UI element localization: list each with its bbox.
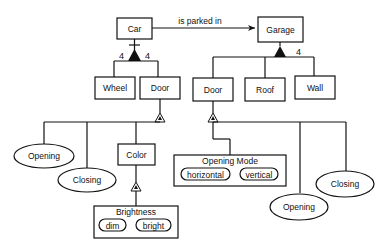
opening-mode-vertical: vertical	[246, 170, 273, 180]
garage-aggregation: 4	[213, 42, 314, 78]
svg-text:Opening: Opening	[283, 202, 315, 212]
aggregation-triangle-icon	[128, 49, 141, 61]
car-label: Car	[128, 24, 142, 34]
door-multiplicity: 4	[145, 51, 150, 61]
svg-text:Roof: Roof	[256, 85, 275, 95]
roof-node[interactable]: Roof	[245, 78, 285, 101]
opening-mode-node[interactable]: Opening Mode horizontal vertical	[174, 155, 286, 186]
car-door-node[interactable]: Door	[140, 77, 180, 99]
association-is-parked-in: is parked in	[152, 16, 255, 31]
svg-text:Wall: Wall	[307, 83, 323, 93]
car-node[interactable]: Car	[117, 18, 152, 39]
opening-mode-horizontal: horizontal	[187, 170, 224, 180]
car-door-opening-attribute[interactable]: Opening	[14, 144, 74, 168]
garage-door-closing-attribute[interactable]: Closing	[316, 171, 374, 197]
svg-text:Closing: Closing	[331, 179, 360, 189]
aggregation-triangle-icon	[274, 46, 286, 57]
wheel-label: Wheel	[103, 83, 127, 93]
brightness-node[interactable]: Brightness dim bright	[94, 206, 178, 238]
car-aggregation: 4 4	[114, 39, 158, 77]
color-specialization	[131, 165, 141, 206]
brightness-dim: dim	[106, 221, 120, 231]
car-door-closing-attribute[interactable]: Closing	[58, 168, 116, 192]
svg-text:Brightness: Brightness	[116, 207, 156, 217]
color-node[interactable]: Color	[118, 144, 155, 165]
car-wheel-node[interactable]: Wheel	[95, 77, 135, 99]
car-door-label: Door	[151, 83, 170, 93]
garage-door-label: Door	[204, 85, 223, 95]
association-label: is parked in	[178, 16, 222, 26]
brightness-bright: bright	[143, 221, 165, 231]
svg-text:Closing: Closing	[73, 175, 102, 185]
garage-door-node[interactable]: Door	[193, 78, 233, 101]
svg-text:Color: Color	[126, 150, 146, 160]
garage-door-opening-attribute[interactable]: Opening	[270, 194, 328, 220]
wall-node[interactable]: Wall	[295, 76, 335, 99]
svg-text:Opening Mode: Opening Mode	[202, 156, 258, 166]
wheel-multiplicity: 4	[119, 51, 124, 61]
garage-label: Garage	[266, 25, 295, 35]
object-model-diagram: is parked in Car 4 4 Wheel Door Opening	[0, 0, 390, 249]
svg-text:Opening: Opening	[28, 151, 60, 161]
wall-multiplicity: 4	[296, 47, 301, 57]
garage-node[interactable]: Garage	[258, 17, 303, 42]
